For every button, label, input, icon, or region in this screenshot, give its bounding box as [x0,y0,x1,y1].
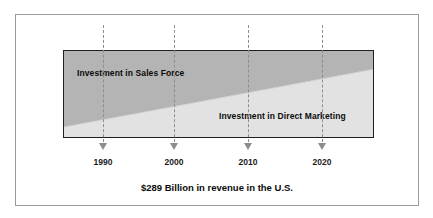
dashed-line-icon [103,25,104,147]
x-axis-tick-label-2000: 2000 [144,157,204,167]
timeline-marker-1990 [99,25,108,157]
dashed-line-icon [248,25,249,147]
x-axis-tick-label-2010: 2010 [218,157,278,167]
down-arrow-icon [170,143,178,150]
area-label-sales-force: Investment in Sales Force [77,68,184,78]
dashed-line-icon [174,25,175,147]
x-axis-tick-label-1990: 1990 [73,157,133,167]
down-arrow-icon [318,143,326,150]
dashed-line-icon [322,25,323,147]
down-arrow-icon [99,143,107,150]
x-axis-tick-label-2020: 2020 [292,157,352,167]
figure-root: Investment in Sales Force Investment in … [0,0,433,218]
timeline-marker-2020 [318,25,327,157]
down-arrow-icon [244,143,252,150]
timeline-marker-2000 [170,25,179,157]
timeline-marker-2010 [244,25,253,157]
stacked-area-plot [63,50,374,138]
figure-caption: $289 Billion in revenue in the U.S. [16,182,418,193]
area-chart-svg [64,51,374,138]
